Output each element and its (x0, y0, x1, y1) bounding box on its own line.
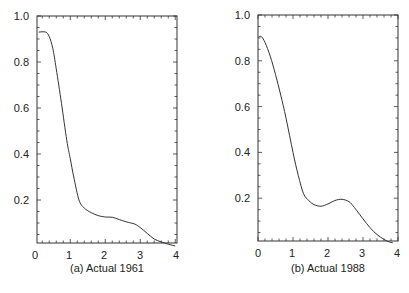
y-tick-label: 0.2 (235, 192, 250, 204)
y-tick-label: 0.6 (235, 101, 250, 113)
y-tick-label: 1.0 (235, 9, 250, 21)
plot-frame (258, 15, 398, 241)
y-tick-label: 0.8 (14, 56, 29, 68)
x-tick-label: 0 (32, 249, 38, 261)
series-line-1961 (39, 32, 176, 246)
series-line-1988 (259, 36, 393, 243)
chart-figure: 012340.20.40.60.81.0(a) Actual 1961 0123… (0, 0, 409, 293)
x-tick-label: 1 (289, 247, 295, 259)
chart-panel-1988: 012340.20.40.60.81.0(b) Actual 1988 (235, 9, 400, 274)
x-tick-label: 4 (394, 247, 400, 259)
x-tick-label: 3 (137, 249, 143, 261)
x-tick-label: 2 (324, 247, 330, 259)
x-tick-label: 3 (359, 247, 365, 259)
x-tick-label: 1 (66, 249, 72, 261)
y-tick-label: 0.4 (235, 146, 250, 158)
x-tick-label: 2 (101, 249, 107, 261)
y-tick-label: 0.4 (14, 148, 29, 160)
x-tick-label: 0 (255, 247, 261, 259)
y-tick-label: 1.0 (14, 10, 29, 22)
y-tick-label: 0.2 (14, 194, 29, 206)
chart-panel-1961: 012340.20.40.60.81.0(a) Actual 1961 (14, 10, 179, 274)
y-tick-label: 0.8 (235, 55, 250, 67)
panel-caption: (b) Actual 1988 (291, 262, 365, 274)
y-tick-label: 0.6 (14, 102, 29, 114)
x-tick-label: 4 (173, 249, 179, 261)
plot-frame (37, 16, 177, 243)
panel-caption: (a) Actual 1961 (70, 262, 144, 274)
